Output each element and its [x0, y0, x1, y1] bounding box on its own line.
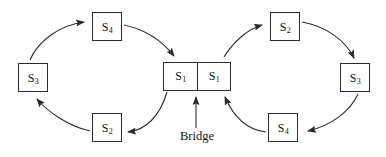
state-node-left-s3-label: S3: [28, 72, 39, 84]
state-node-right-s2-label: S2: [280, 21, 291, 33]
state-node-left-s3[interactable]: S3: [18, 63, 48, 92]
state-diagram-figure: S3 S4 S2 S1 S1 S2 S3 S4 Bridge: [0, 0, 386, 157]
state-node-right-s1[interactable]: S1: [197, 63, 230, 90]
state-node-right-s1-label: S1: [209, 69, 220, 84]
edge-right-s1-to-s2: [224, 25, 262, 57]
edge-right-s3-to-s4: [308, 94, 358, 131]
edge-left-s2-to-s3: [37, 99, 90, 131]
state-node-right-s4[interactable]: S4: [268, 113, 298, 142]
edge-left-s4-to-s1: [124, 25, 174, 56]
state-node-left-s4-label: S4: [102, 21, 113, 33]
edge-right-s2-to-s3: [302, 22, 354, 58]
state-node-right-s4-label: S4: [278, 122, 289, 134]
edge-right-s4-to-s1: [225, 97, 266, 132]
state-node-left-s4[interactable]: S4: [92, 12, 122, 41]
bridge-state-pair: S1 S1: [163, 62, 231, 91]
state-node-left-s1-label: S1: [175, 69, 186, 84]
edge-left-s1-to-s2: [128, 92, 167, 132]
bridge-caption: Bridge: [158, 130, 236, 143]
state-node-left-s2[interactable]: S2: [92, 113, 122, 142]
edge-left-s3-to-s4: [30, 22, 84, 60]
state-node-left-s2-label: S2: [102, 122, 113, 134]
state-node-right-s2[interactable]: S2: [270, 12, 300, 41]
state-node-right-s3[interactable]: S3: [340, 63, 370, 92]
state-node-right-s3-label: S3: [350, 72, 361, 84]
state-node-left-s1[interactable]: S1: [164, 63, 197, 90]
